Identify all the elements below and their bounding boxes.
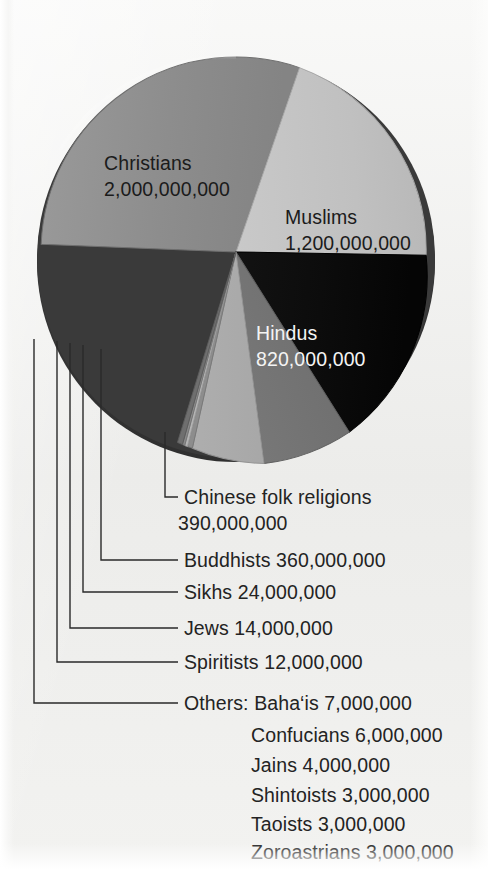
label-christians-value: 2,000,000,000 (104, 178, 230, 200)
callout-others-item-jains: Jains 4,000,000 (251, 754, 390, 776)
callout-others-item-confucians: Confucians 6,000,000 (251, 724, 443, 746)
callout-chinese-folk-line2: 390,000,000 (178, 512, 288, 534)
callout-sikhs: Sikhs 24,000,000 (184, 581, 336, 603)
label-muslims-value: 1,200,000,000 (285, 232, 411, 254)
label-muslims-name: Muslims (285, 206, 357, 228)
figure-page: Christians 2,000,000,000 Muslims 1,200,0… (0, 0, 488, 869)
callout-others-item-zoroastrians: Zoroastrians 3,000,000 (251, 841, 454, 863)
callout-spiritists: Spiritists 12,000,000 (184, 651, 363, 673)
label-hindus-value: 820,000,000 (256, 348, 366, 370)
callout-jews: Jews 14,000,000 (184, 617, 333, 639)
callout-others-item-shintoists: Shintoists 3,000,000 (251, 784, 430, 806)
callout-others: Others: Baha‘is 7,000,000 (184, 692, 412, 714)
callout-chinese-folk-line1: Chinese folk religions (184, 486, 372, 508)
callout-buddhists: Buddhists 360,000,000 (184, 549, 386, 571)
label-hindus-name: Hindus (256, 322, 317, 344)
pie-chart-figure: Christians 2,000,000,000 Muslims 1,200,0… (0, 0, 488, 869)
label-christians-name: Christians (104, 152, 192, 174)
callout-labels: Chinese folk religions 390,000,000 Buddh… (178, 486, 454, 863)
callout-others-item-taoists: Taoists 3,000,000 (251, 813, 406, 835)
